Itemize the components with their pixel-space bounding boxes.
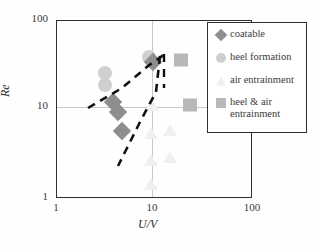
legend-item-heel-and-air-entrainment: heel & air entrainment xyxy=(212,96,280,119)
legend-item-air-entrainment: air entrainment xyxy=(212,74,294,88)
data-point-air-entrainment xyxy=(163,151,177,163)
x-axis-label: U/V xyxy=(138,217,157,232)
legend-label: heel formation xyxy=(230,51,292,63)
legend-label-line2: entrainment xyxy=(230,108,280,119)
legend-label: air entrainment xyxy=(230,74,294,86)
data-point-air-entrainment xyxy=(163,124,177,136)
circle-marker-icon xyxy=(212,51,230,65)
data-point-heel-formation xyxy=(98,78,112,92)
data-point-air-entrainment xyxy=(145,99,159,111)
chart-figure: 100 10 1 Re 1 10 100 U/V coatable heel f… xyxy=(0,0,317,251)
data-point-air-entrainment xyxy=(144,154,158,166)
y-tick-10: 10 xyxy=(18,99,48,111)
legend-item-heel-formation: heel formation xyxy=(212,51,292,65)
data-point-air-entrainment xyxy=(144,178,158,190)
y-tick-100: 100 xyxy=(18,12,48,24)
triangle-marker-icon xyxy=(212,74,230,88)
diamond-marker-icon xyxy=(212,28,230,42)
data-point-heel-and-air xyxy=(183,99,197,112)
legend-box: coatable heel formation air entrainment … xyxy=(207,22,307,133)
x-tick-10: 10 xyxy=(137,201,167,213)
data-point-heel-and-air xyxy=(174,54,188,67)
data-point-air-entrainment xyxy=(144,127,158,139)
y-axis-label: Re xyxy=(0,84,13,97)
square-marker-icon xyxy=(212,96,230,110)
legend-item-coatable: coatable xyxy=(212,28,265,42)
legend-label: heel & air xyxy=(230,96,272,107)
x-tick-1: 1 xyxy=(41,201,71,213)
legend-label: coatable xyxy=(230,28,265,40)
x-tick-100: 100 xyxy=(237,201,267,213)
